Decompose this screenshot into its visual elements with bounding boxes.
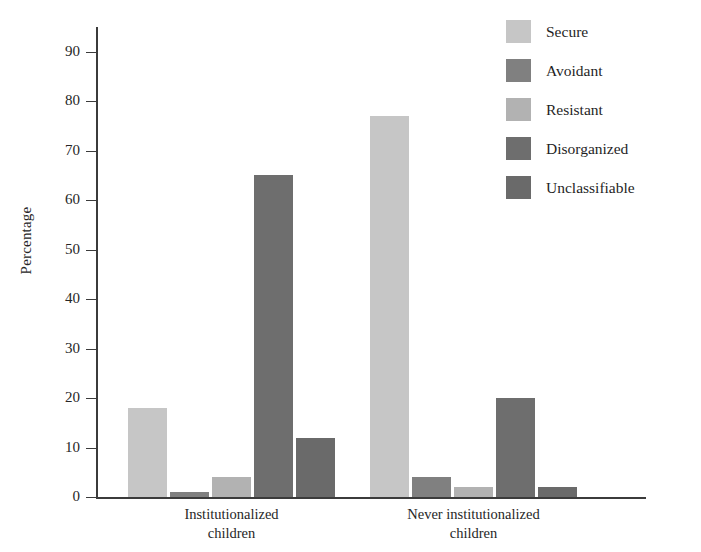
legend-label: Resistant xyxy=(546,101,603,119)
y-axis-tick xyxy=(86,52,98,53)
y-axis-tick-label: 90 xyxy=(46,44,80,59)
chart-legend: SecureAvoidantResistantDisorganizedUncla… xyxy=(506,12,635,207)
bar-resistant-group-1 xyxy=(212,477,251,497)
legend-item-secure: Secure xyxy=(506,12,635,51)
bar-chart-figure: Percentage 0102030405060708090 Instituti… xyxy=(0,0,701,552)
y-axis-tick xyxy=(86,398,98,399)
legend-item-unclassifiable: Unclassifiable xyxy=(506,168,635,207)
y-axis-tick-label: 80 xyxy=(46,93,80,108)
legend-item-avoidant: Avoidant xyxy=(506,51,635,90)
legend-swatch-unclassifiable xyxy=(506,176,531,199)
bar-avoidant-group-2 xyxy=(412,477,451,497)
y-axis-tick-label: 60 xyxy=(46,192,80,207)
legend-item-disorganized: Disorganized xyxy=(506,129,635,168)
bar-secure-group-2 xyxy=(370,116,409,497)
x-axis-category-label: Never institutionalizedchildren xyxy=(354,505,594,543)
y-axis-tick-label: 0 xyxy=(46,489,80,504)
legend-label: Unclassifiable xyxy=(546,179,635,197)
legend-swatch-resistant xyxy=(506,98,531,121)
legend-label: Disorganized xyxy=(546,140,628,158)
bar-disorganized-group-1 xyxy=(254,175,293,497)
x-axis-label-line: Never institutionalized xyxy=(407,506,539,522)
y-axis-tick xyxy=(86,299,98,300)
x-axis-label-line: children xyxy=(112,524,352,543)
y-axis-tick-label: 30 xyxy=(46,341,80,356)
y-axis-tick xyxy=(86,497,98,498)
x-axis-label-line: children xyxy=(354,524,594,543)
legend-item-resistant: Resistant xyxy=(506,90,635,129)
x-axis-label-line: Institutionalized xyxy=(184,506,278,522)
y-axis-title: Percentage xyxy=(18,171,35,311)
y-axis-tick-label: 70 xyxy=(46,143,80,158)
bar-resistant-group-2 xyxy=(454,487,493,497)
bar-avoidant-group-1 xyxy=(170,492,209,497)
legend-swatch-disorganized xyxy=(506,137,531,160)
x-axis-line xyxy=(96,497,646,499)
x-axis-category-label: Institutionalizedchildren xyxy=(112,505,352,543)
bar-secure-group-1 xyxy=(128,408,167,497)
y-axis-tick-label: 10 xyxy=(46,440,80,455)
bar-disorganized-group-2 xyxy=(496,398,535,497)
bar-unclassifiable-group-2 xyxy=(538,487,577,497)
y-axis-tick xyxy=(86,200,98,201)
y-axis-tick xyxy=(86,250,98,251)
y-axis-tick-label: 40 xyxy=(46,291,80,306)
y-axis-tick xyxy=(86,349,98,350)
y-axis-tick xyxy=(86,448,98,449)
y-axis-tick-label: 50 xyxy=(46,242,80,257)
legend-swatch-avoidant xyxy=(506,59,531,82)
legend-label: Secure xyxy=(546,23,588,41)
bar-unclassifiable-group-1 xyxy=(296,438,335,497)
legend-swatch-secure xyxy=(506,20,531,43)
y-axis-tick xyxy=(86,151,98,152)
legend-label: Avoidant xyxy=(546,62,603,80)
y-axis-tick-label: 20 xyxy=(46,390,80,405)
y-axis-tick xyxy=(86,101,98,102)
caption-fragment xyxy=(8,543,258,551)
